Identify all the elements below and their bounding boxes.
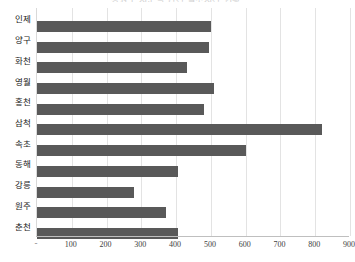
bar-row[interactable]: [37, 57, 350, 78]
bar[interactable]: [37, 145, 246, 156]
bar-row[interactable]: [37, 182, 350, 203]
bar[interactable]: [37, 228, 178, 239]
bar-row[interactable]: [37, 161, 350, 182]
y-axis-tick-label: 동해: [0, 153, 31, 174]
bar[interactable]: [37, 83, 214, 94]
y-axis-tick-label: 영월: [0, 70, 31, 91]
x-axis-tick-label: 700: [273, 240, 285, 249]
bar-row[interactable]: [37, 120, 350, 141]
x-axis-tick-label: 200: [100, 240, 112, 249]
gridline: [350, 8, 351, 236]
y-axis-tick-label: 춘천: [0, 215, 31, 236]
y-axis-tick-label: 홍천: [0, 91, 31, 112]
x-axis-tick-label: 600: [239, 240, 251, 249]
bar[interactable]: [37, 124, 322, 135]
bar-row[interactable]: [37, 203, 350, 224]
bar[interactable]: [37, 207, 166, 218]
x-axis-tick-label: 400: [169, 240, 181, 249]
y-axis-tick-label: 강릉: [0, 174, 31, 195]
bar[interactable]: [37, 187, 134, 198]
y-axis-tick-label: 삼척: [0, 112, 31, 133]
x-axis-line: [36, 236, 349, 237]
y-axis-tick-label: 원주: [0, 195, 31, 216]
bar-row[interactable]: [37, 16, 350, 37]
bar-row[interactable]: [37, 78, 350, 99]
x-axis-tick-label: 900: [343, 240, 355, 249]
x-axis-tick-label: 100: [65, 240, 77, 249]
y-axis-tick-label: 화천: [0, 49, 31, 70]
bar-row[interactable]: [37, 37, 350, 58]
bar[interactable]: [37, 166, 178, 177]
plot-area: [36, 8, 349, 236]
x-axis-tick-label: -: [35, 238, 38, 248]
bar[interactable]: [37, 42, 209, 53]
bar[interactable]: [37, 62, 187, 73]
y-axis-tick-label: 인제: [0, 8, 31, 29]
bar[interactable]: [37, 104, 204, 115]
x-axis-tick-label: 500: [204, 240, 216, 249]
bar-row[interactable]: [37, 140, 350, 161]
bar-row[interactable]: [37, 223, 350, 244]
bar[interactable]: [37, 21, 211, 32]
x-axis-tick-label: 300: [134, 240, 146, 249]
y-axis-tick-label: 양구: [0, 29, 31, 50]
x-axis-tick-label: 800: [308, 240, 320, 249]
y-axis-tick-label: 속초: [0, 132, 31, 153]
chart-title: 강원도 시군별 연간 일조시간 현황: [0, 0, 351, 2]
bar-row[interactable]: [37, 99, 350, 120]
